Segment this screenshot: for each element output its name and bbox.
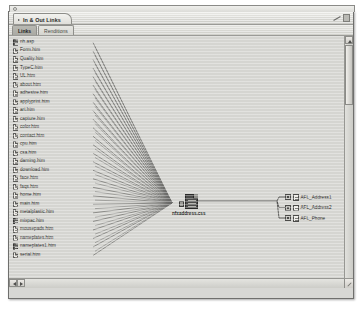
document-icon — [13, 209, 18, 216]
list-item-label: TypeC.htm — [20, 66, 43, 71]
list-item-label: face.htm — [20, 176, 38, 181]
list-item-label: home.htm — [20, 193, 41, 198]
list-item-label: adhesive.htm — [20, 91, 48, 96]
list-item[interactable]: faqs.htm — [11, 183, 89, 192]
list-item[interactable]: nameplates.htm — [11, 234, 89, 243]
document-icon — [13, 56, 18, 63]
list-item-label: applyprint.htm — [20, 100, 50, 105]
list-item[interactable]: color.htm — [11, 123, 89, 132]
tab-renditions-label: Renditions — [44, 28, 68, 34]
vertical-scroll-thumb[interactable] — [345, 45, 353, 105]
center-node-icons — [179, 194, 198, 209]
outgoing-link-item[interactable]: AFL_Phone — [285, 213, 332, 224]
list-item[interactable]: darning.htm — [11, 157, 89, 166]
resize-grip-icon[interactable] — [344, 279, 353, 288]
document-icon — [13, 107, 18, 114]
document-icon — [293, 215, 299, 222]
document-icon — [13, 116, 18, 123]
title-bar-controls[interactable] — [333, 14, 350, 22]
list-item[interactable]: adhesive.htm — [11, 89, 89, 98]
document-icon — [13, 192, 18, 199]
document-icon — [13, 243, 18, 250]
list-item-label: UL.htm — [20, 74, 35, 79]
scroll-right-arrow-icon[interactable] — [17, 279, 25, 287]
list-item[interactable]: cpu.htm — [11, 140, 89, 149]
list-item[interactable]: capture.htm — [11, 115, 89, 124]
list-item[interactable]: csa.htm — [11, 149, 89, 158]
document-icon — [13, 235, 18, 242]
document-icon — [13, 65, 18, 72]
list-item-label: main.htm — [20, 202, 39, 207]
document-icon — [13, 73, 18, 80]
list-item[interactable]: nameplates1.htm — [11, 242, 89, 251]
document-icon — [13, 150, 18, 157]
list-item-label: faqs.htm — [20, 185, 38, 190]
list-item[interactable]: metalplastic.htm — [11, 208, 89, 217]
close-button[interactable] — [13, 7, 17, 11]
list-item-label: mixpac.htm — [20, 219, 44, 224]
list-item[interactable]: UL.htm — [11, 72, 89, 81]
list-item[interactable]: mousepads.htm — [11, 225, 89, 234]
list-item[interactable]: face.htm — [11, 174, 89, 183]
stylesheet-file-icon — [185, 194, 198, 209]
window-title-tab[interactable]: In & Out Links — [13, 13, 72, 25]
links-graph-canvas[interactable]: nh.aspForm.htmQuality.htmTypeC.htmUL.htm… — [9, 36, 353, 288]
scroll-left-arrow-icon[interactable] — [9, 279, 17, 287]
list-item[interactable]: mixpac.htm — [11, 217, 89, 226]
tab-links[interactable]: Links — [12, 25, 37, 35]
document-icon — [13, 167, 18, 174]
outgoing-link-label: AFL_Phone — [301, 216, 326, 221]
vertical-scrollbar[interactable] — [344, 36, 353, 288]
pencil-icon[interactable] — [333, 16, 340, 21]
list-item[interactable]: art.htm — [11, 106, 89, 115]
document-icon — [13, 184, 18, 191]
document-icon — [13, 82, 18, 89]
center-node[interactable]: nfxaddress.css — [172, 194, 205, 216]
titlebar-button[interactable] — [343, 14, 350, 22]
list-item[interactable]: applyprint.htm — [11, 98, 89, 107]
window-title-bar[interactable]: In & Out Links — [9, 12, 353, 25]
list-item-label: color.htm — [20, 125, 39, 130]
document-icon — [13, 141, 18, 148]
list-item-label: mousepads.htm — [20, 227, 53, 232]
document-icon — [13, 201, 18, 208]
list-item[interactable]: download.htm — [11, 166, 89, 175]
list-item-label: csa.htm — [20, 151, 36, 156]
document-icon — [293, 205, 299, 212]
center-node-label: nfxaddress.css — [172, 211, 205, 216]
list-item-label: metalplastic.htm — [20, 210, 54, 215]
outgoing-link-label: AFL_Address2 — [301, 205, 332, 210]
horizontal-scrollbar[interactable] — [9, 278, 353, 288]
document-icon — [13, 39, 18, 46]
list-item-label: nh.asp — [20, 40, 34, 45]
list-item[interactable]: TypeC.htm — [11, 64, 89, 73]
document-icon — [13, 226, 18, 233]
document-icon — [13, 133, 18, 140]
list-item[interactable]: main.htm — [11, 200, 89, 209]
list-item-label: Quality.htm — [20, 57, 43, 62]
list-item[interactable]: Form.htm — [11, 47, 89, 56]
list-item[interactable]: serial.htm — [11, 251, 89, 260]
source-file-list[interactable]: nh.aspForm.htmQuality.htmTypeC.htmUL.htm… — [11, 38, 89, 259]
document-icon — [13, 90, 18, 97]
list-item[interactable]: contact.htm — [11, 132, 89, 141]
outgoing-link-item[interactable]: AFL_Address1 — [285, 192, 332, 203]
list-item-label: capture.htm — [20, 117, 45, 122]
document-icon — [13, 48, 18, 55]
list-item[interactable]: about.htm — [11, 81, 89, 90]
outgoing-link-item[interactable]: AFL_Address2 — [285, 203, 332, 214]
tab-renditions[interactable]: Renditions — [38, 25, 74, 35]
document-icon — [13, 99, 18, 106]
document-icon — [13, 218, 18, 225]
triangle-right-icon — [18, 19, 20, 21]
list-item[interactable]: Quality.htm — [11, 55, 89, 64]
list-item-label: serial.htm — [20, 253, 40, 258]
list-item[interactable]: home.htm — [11, 191, 89, 200]
document-icon — [13, 158, 18, 165]
link-target-icon — [285, 215, 291, 221]
list-item[interactable]: nh.asp — [11, 38, 89, 47]
list-item-label: darning.htm — [20, 159, 45, 164]
scroll-up-arrow-icon[interactable] — [345, 36, 353, 44]
link-target-icon — [285, 205, 291, 211]
outgoing-link-list[interactable]: AFL_Address1AFL_Address2AFL_Phone — [285, 192, 332, 224]
